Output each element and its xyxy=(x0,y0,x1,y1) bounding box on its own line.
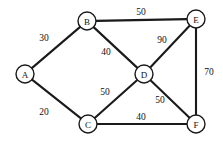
edge-weight-e-f: 70 xyxy=(204,67,214,77)
edge-weight-a-b: 30 xyxy=(39,33,49,43)
edges-layer xyxy=(32,19,196,124)
edge-d-e xyxy=(150,26,190,68)
node-label-e: E xyxy=(193,15,199,25)
node-f: F xyxy=(187,115,205,133)
edge-b-e xyxy=(96,19,187,21)
node-label-a: A xyxy=(22,70,29,80)
edge-weight-d-e: 90 xyxy=(157,35,167,45)
node-label-f: F xyxy=(193,120,198,130)
edge-weight-b-e: 50 xyxy=(136,7,146,17)
edge-b-d xyxy=(94,27,138,68)
edge-weight-c-d: 50 xyxy=(100,87,110,97)
edge-weight-d-f: 50 xyxy=(155,95,165,105)
node-d: D xyxy=(135,65,153,83)
node-b: B xyxy=(78,12,96,30)
graph-diagram: ABCDEF 302050409070505040 xyxy=(0,0,223,141)
edge-labels-layer: 302050409070505040 xyxy=(39,7,214,122)
node-a: A xyxy=(16,65,34,83)
edge-weight-a-c: 20 xyxy=(39,107,49,117)
node-label-b: B xyxy=(84,17,90,27)
node-e: E xyxy=(187,10,205,28)
node-label-c: C xyxy=(85,120,91,130)
edge-c-d xyxy=(95,80,138,118)
edge-weight-b-d: 40 xyxy=(101,47,111,57)
edge-weight-c-f: 40 xyxy=(136,112,146,122)
node-c: C xyxy=(79,115,97,133)
graph-canvas: ABCDEF 302050409070505040 xyxy=(0,0,223,141)
node-label-d: D xyxy=(141,70,148,80)
